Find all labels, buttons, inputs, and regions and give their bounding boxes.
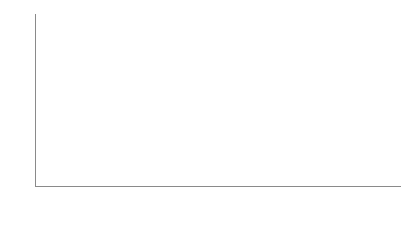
stacked-area-svg [35, 14, 401, 186]
plot-area [35, 14, 401, 186]
cumulative-flow-chart [0, 0, 404, 250]
x-axis-line [35, 186, 401, 187]
y-axis-line [35, 14, 36, 186]
